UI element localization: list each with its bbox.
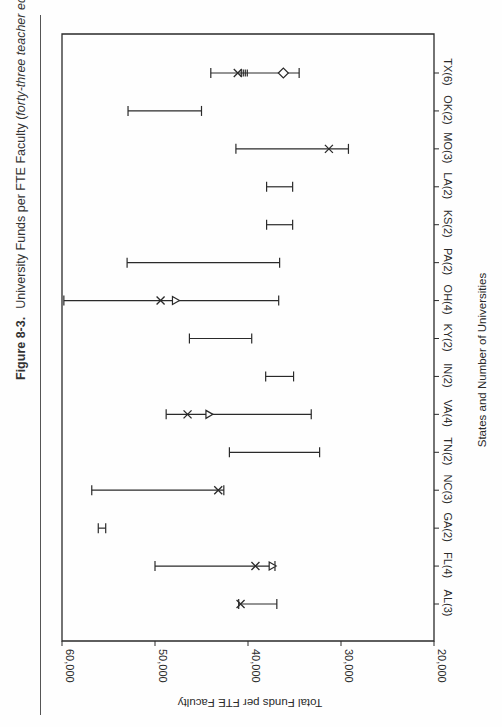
triangle-marker-icon	[206, 410, 213, 418]
category-label: OK(2)	[442, 95, 454, 124]
value-axis-title: Total Funds per FTE Faculty	[178, 697, 323, 709]
category-label: TX(6)	[442, 58, 454, 86]
value-tick-label: 50,000	[157, 649, 169, 683]
category-label: MO(3)	[442, 132, 454, 163]
value-tick-label: 40,000	[250, 649, 262, 683]
category-label: VA(4)	[442, 400, 454, 427]
category-label: AL(3)	[442, 590, 454, 617]
value-tick-label: 30,000	[343, 649, 355, 683]
category-label: TN(2)	[442, 437, 454, 465]
category-axis-title: States and Number of Universities	[476, 273, 488, 448]
category-label: IN(2)	[442, 363, 454, 387]
category-label: KY(2)	[442, 323, 454, 351]
category-label: OH(4)	[442, 285, 454, 315]
category-label: NC(3)	[442, 475, 454, 504]
range-chart: 60,00050,00040,00030,00020,000Total Fund…	[0, 0, 502, 727]
plot-frame	[62, 34, 434, 641]
value-tick-label: 60,000	[64, 649, 76, 683]
category-label: PA(2)	[442, 248, 454, 275]
category-label: KS(2)	[442, 210, 454, 238]
value-tick-label: 20,000	[436, 649, 448, 683]
diamond-marker-icon	[278, 68, 288, 78]
category-label: LA(2)	[442, 172, 454, 199]
category-label: GA(2)	[442, 512, 454, 541]
category-label: FL(4)	[442, 552, 454, 578]
triangle-marker-icon	[172, 297, 179, 305]
